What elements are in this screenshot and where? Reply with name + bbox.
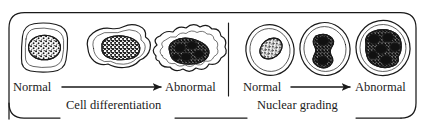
caption-cell-differentiation: Cell differentiation xyxy=(66,99,161,112)
label-normal-differentiation: Normal xyxy=(13,81,51,94)
bilobed-nucleus xyxy=(313,34,334,68)
label-abnormal-differentiation: Abnormal xyxy=(165,81,216,94)
label-normal-nuclear-grading: Normal xyxy=(243,81,281,94)
bilobed-nucleus-cell xyxy=(295,18,355,80)
normal-nucleus-cell xyxy=(241,19,300,80)
caption-nuclear-grading: Nuclear grading xyxy=(257,99,338,112)
abnormal-cell-nucleus xyxy=(169,38,209,64)
normal-nucleus xyxy=(256,34,286,63)
diagram-canvas xyxy=(0,0,425,122)
intermediate-cell-nucleus xyxy=(102,36,140,60)
abnormal-nucleus xyxy=(366,30,402,68)
intermediate-cell xyxy=(87,25,150,68)
abnormal-cell xyxy=(153,25,226,72)
normal-cell xyxy=(21,23,67,72)
label-abnormal-nuclear-grading: Abnormal xyxy=(355,81,406,94)
figure-container: Normal Abnormal Normal Abnormal Cell dif… xyxy=(0,0,425,122)
abnormal-nucleus-cell xyxy=(352,16,415,80)
normal-cell-nucleus xyxy=(29,35,61,60)
